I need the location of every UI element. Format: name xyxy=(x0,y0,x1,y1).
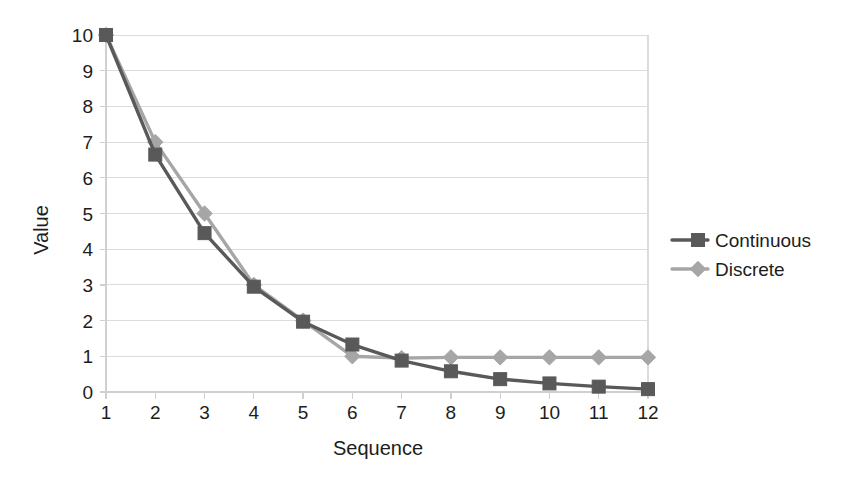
y-axis-title: Value xyxy=(30,205,52,255)
chart-container: 012345678910 123456789101112 Sequence Va… xyxy=(0,0,855,485)
data-point-marker xyxy=(198,227,211,240)
data-point-marker xyxy=(346,338,359,351)
y-tick-label: 10 xyxy=(72,25,93,46)
y-tick-label: 6 xyxy=(82,168,93,189)
legend-label: Discrete xyxy=(715,259,785,280)
x-tick-label: 4 xyxy=(249,402,260,423)
x-axis-title: Sequence xyxy=(333,437,423,459)
legend-label: Continuous xyxy=(715,230,811,251)
x-tick-label: 6 xyxy=(347,402,358,423)
data-point-marker xyxy=(494,373,507,386)
x-tick-label: 7 xyxy=(396,402,407,423)
data-point-marker xyxy=(692,234,705,247)
y-tick-label: 4 xyxy=(82,239,93,260)
y-tick-label: 9 xyxy=(82,61,93,82)
y-tick-label: 5 xyxy=(82,204,93,225)
x-tick-label: 11 xyxy=(589,402,609,423)
x-tick-label: 12 xyxy=(637,402,658,423)
y-tick-label: 3 xyxy=(82,275,93,296)
data-point-marker xyxy=(297,315,310,328)
y-tick-label: 2 xyxy=(82,311,93,332)
x-tick-label: 9 xyxy=(495,402,506,423)
data-point-marker xyxy=(100,29,113,42)
x-tick-label: 1 xyxy=(101,402,112,423)
x-tick-label: 8 xyxy=(446,402,457,423)
line-chart: 012345678910 123456789101112 Sequence Va… xyxy=(0,0,855,485)
data-point-marker xyxy=(543,377,556,390)
data-point-marker xyxy=(149,148,162,161)
data-point-marker xyxy=(247,280,260,293)
data-point-marker xyxy=(592,380,605,393)
x-tick-label: 3 xyxy=(199,402,210,423)
y-tick-label: 7 xyxy=(82,132,93,153)
data-point-marker xyxy=(444,365,457,378)
x-tick-label: 2 xyxy=(150,402,161,423)
y-tick-label: 1 xyxy=(82,346,93,367)
y-tick-label: 8 xyxy=(82,96,93,117)
y-tick-label: 0 xyxy=(82,382,93,403)
data-point-marker xyxy=(642,383,655,396)
x-tick-label: 5 xyxy=(298,402,309,423)
x-tick-label: 10 xyxy=(539,402,560,423)
data-point-marker xyxy=(395,354,408,367)
